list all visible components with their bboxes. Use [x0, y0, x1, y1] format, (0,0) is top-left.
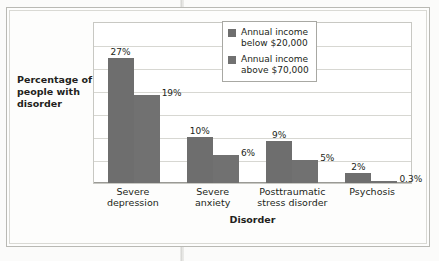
bar-value-label: 0.3%	[399, 174, 422, 184]
legend-swatch-icon	[228, 56, 236, 64]
bar-series1: 9%	[266, 141, 292, 183]
legend-item-above-70000: Annual income above $70,000	[228, 54, 309, 76]
x-label-line1: Severe	[196, 186, 229, 197]
x-label-line1: Psychosis	[349, 186, 395, 197]
bar-group-psychosis: 2% 0.3%	[332, 23, 411, 183]
x-label-line1: Posttraumatic	[259, 186, 325, 197]
legend-label: Annual income below $20,000	[241, 27, 308, 49]
legend-label-line2: below $20,000	[241, 38, 308, 48]
figure-frame: Percentage of people with disorder 27%	[6, 7, 430, 247]
bar-chart: Percentage of people with disorder 27%	[7, 8, 431, 248]
legend-item-below-20000: Annual income below $20,000	[228, 27, 309, 49]
bar-value-label: 10%	[190, 126, 210, 136]
x-axis-category-labels: Severe depression Severe anxiety Posttra…	[93, 186, 412, 208]
x-label-line2: anxiety	[195, 197, 230, 208]
bar-series2: 19%	[134, 95, 160, 183]
bar-series1: 27%	[108, 58, 134, 183]
bar-series2: 6%	[213, 155, 239, 183]
bar-value-label: 9%	[272, 130, 286, 140]
bar-value-label: 27%	[111, 47, 131, 57]
x-label-posttraumatic-stress-disorder: Posttraumatic stress disorder	[253, 186, 333, 208]
x-axis-title: Disorder	[93, 214, 412, 225]
bar-series2: 0.3%	[371, 181, 397, 183]
legend-label-line1: Annual income	[241, 27, 308, 37]
bar-series1: 2%	[345, 173, 371, 183]
bar-group-severe-depression: 27% 19%	[94, 23, 173, 183]
x-label-severe-anxiety: Severe anxiety	[173, 186, 253, 208]
legend-swatch-icon	[228, 29, 236, 37]
y-axis-title: Percentage of people with disorder	[17, 74, 93, 110]
bar-series2: 5%	[292, 160, 318, 183]
x-label-line2: depression	[107, 197, 159, 208]
legend-label-line1: Annual income	[241, 54, 308, 64]
x-label-psychosis: Psychosis	[332, 186, 412, 208]
x-label-line1: Severe	[116, 186, 149, 197]
x-label-severe-depression: Severe depression	[93, 186, 173, 208]
bar-value-label: 2%	[351, 162, 365, 172]
bar-series1: 10%	[187, 137, 213, 183]
legend: Annual income below $20,000 Annual incom…	[222, 21, 317, 82]
scanned-page: Percentage of people with disorder 27%	[0, 0, 439, 261]
legend-label-line2: above $70,000	[241, 65, 309, 75]
legend-label: Annual income above $70,000	[241, 54, 309, 76]
x-label-line2: stress disorder	[257, 197, 327, 208]
